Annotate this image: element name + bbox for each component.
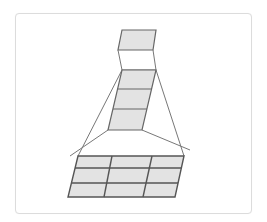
middle-stack [108,70,156,130]
top-projection-lines [118,50,156,70]
receptive-field-diagram [0,0,267,222]
projection-line [142,130,190,150]
bottom-grid [68,156,184,197]
projection-line [156,70,184,156]
top-unit-cell [118,30,156,50]
